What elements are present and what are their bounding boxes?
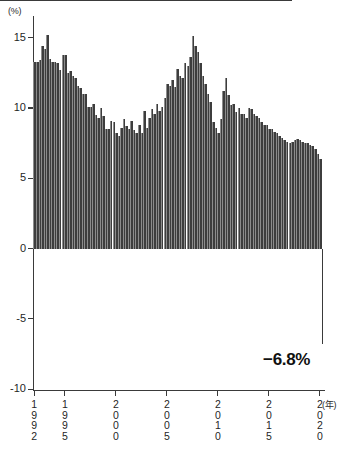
y-axis-unit-label: (%) [8, 6, 21, 16]
y-tick-label: 10 [0, 101, 26, 113]
y-tick-label: 15 [0, 31, 26, 43]
bar [319, 159, 322, 249]
y-tick-label: -5 [0, 312, 26, 324]
y-tick-label: -10 [0, 382, 26, 394]
x-tick-label: 2 0 0 5 [160, 399, 174, 441]
y-tick-mark [28, 37, 34, 38]
y-tick-mark [28, 318, 34, 319]
x-tick-mark [217, 390, 218, 396]
x-tick-label: 2 0 1 0 [211, 399, 225, 441]
x-tick-mark [115, 390, 116, 396]
x-tick-label: 1 9 9 5 [58, 399, 72, 441]
final-value-bar [322, 249, 324, 345]
x-axis-unit-label: (年) [322, 398, 336, 411]
x-tick-label: 2 0 0 0 [109, 399, 123, 441]
x-tick-mark [34, 390, 35, 396]
zero-baseline [0, 0, 292, 1]
x-axis-line [33, 390, 325, 391]
x-tick-label: 1 9 9 2 [27, 399, 41, 441]
y-tick-label: 0 [0, 242, 26, 254]
y-tick-label: 5 [0, 171, 26, 183]
x-tick-mark [166, 390, 167, 396]
x-tick-mark [64, 390, 65, 396]
x-tick-label: 2 0 1 5 [262, 399, 276, 441]
final-value-label: −6.8% [263, 350, 310, 370]
x-tick-mark [319, 390, 320, 396]
bar-chart: (%) 151050-5-10 1 9 9 21 9 9 52 0 0 02 0… [0, 0, 341, 468]
x-tick-mark [268, 390, 269, 396]
